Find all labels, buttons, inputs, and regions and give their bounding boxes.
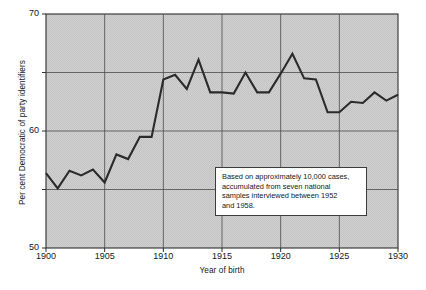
x-tick-label: 1905 xyxy=(85,251,125,261)
annotation-line-4: and 1958. xyxy=(222,201,361,211)
annotation-line-3: samples interviewed between 1952 xyxy=(222,191,361,201)
y-tick-label: 60 xyxy=(13,125,39,135)
chart-figure: Per cent Democratic of party identifiers… xyxy=(0,0,426,290)
x-tick-label: 1910 xyxy=(143,251,183,261)
annotation-box: Based on approximately 10,000 cases, acc… xyxy=(215,167,367,215)
x-tick-label: 1925 xyxy=(319,251,359,261)
line-chart-plot xyxy=(0,0,426,290)
annotation-line-2: accumulated from seven national xyxy=(222,182,361,192)
y-tick-label: 70 xyxy=(13,8,39,18)
x-tick-label: 1930 xyxy=(378,251,418,261)
x-tick-label: 1900 xyxy=(26,251,66,261)
annotation-line-1: Based on approximately 10,000 cases, xyxy=(222,172,361,182)
x-tick-label: 1920 xyxy=(261,251,301,261)
x-axis-label: Year of birth xyxy=(46,266,398,275)
x-tick-label: 1915 xyxy=(202,251,242,261)
